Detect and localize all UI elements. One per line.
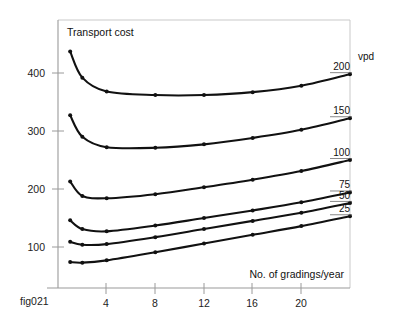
data-point [299, 169, 303, 173]
data-point [80, 135, 84, 139]
data-point [251, 219, 255, 223]
data-point [153, 250, 157, 254]
data-point [68, 218, 72, 222]
data-point [202, 227, 206, 231]
series-label-50: 50 [339, 190, 351, 201]
data-point [299, 84, 303, 88]
x-axis-title: No. of gradings/year [249, 268, 344, 280]
data-point [105, 90, 109, 94]
axes [47, 20, 350, 288]
series-line-25 [70, 216, 350, 262]
data-point [251, 178, 255, 182]
x-tick-label-4: 4 [103, 297, 109, 309]
series-layer [68, 50, 352, 265]
data-point [68, 240, 72, 244]
data-point [105, 258, 109, 262]
x-axis-ticks: 4 8 12 16 20 [103, 283, 307, 309]
series-label-150: 150 [333, 105, 350, 116]
x-tick-label-16: 16 [246, 297, 258, 309]
data-point [299, 211, 303, 215]
series-200 [68, 50, 352, 98]
data-point [80, 261, 84, 265]
data-point [105, 145, 109, 149]
data-point [251, 233, 255, 237]
x-tick-label-12: 12 [198, 297, 210, 309]
data-point [299, 224, 303, 228]
series-line-200 [70, 52, 350, 96]
data-point [202, 142, 206, 146]
data-point [299, 200, 303, 204]
data-point [251, 90, 255, 94]
y-tick-label-300: 300 [27, 125, 45, 137]
x-tick-label-8: 8 [152, 297, 158, 309]
data-point [68, 260, 72, 264]
data-point [251, 208, 255, 212]
data-point [202, 93, 206, 97]
series-label-layer: 200150100755025 [330, 61, 352, 215]
data-point [153, 146, 157, 150]
data-point [153, 224, 157, 228]
data-point [80, 76, 84, 80]
figure-caption: fig021 [20, 295, 49, 307]
data-point [105, 196, 109, 200]
legend-unit-label: vpd [358, 51, 374, 62]
series-150 [68, 113, 352, 149]
data-point [202, 185, 206, 189]
series-25 [68, 214, 352, 264]
y-tick-label-200: 200 [27, 183, 45, 195]
data-point [153, 235, 157, 239]
data-point [68, 50, 72, 54]
data-point [251, 136, 255, 140]
data-point [153, 93, 157, 97]
data-point [299, 128, 303, 132]
y-axis-title: Transport cost [67, 26, 134, 38]
series-100 [68, 158, 352, 200]
y-tick-label-400: 400 [27, 67, 45, 79]
series-label-100: 100 [333, 147, 350, 158]
y-tick-label-100: 100 [27, 241, 45, 253]
data-point [105, 229, 109, 233]
data-point [68, 113, 72, 117]
figure-container: 400 300 200 100 4 8 12 16 20 Transport c… [0, 0, 397, 321]
data-point [202, 242, 206, 246]
data-point [202, 216, 206, 220]
series-line-100 [70, 160, 350, 198]
series-label-25: 25 [339, 203, 351, 214]
data-point [80, 194, 84, 198]
series-label-75: 75 [339, 179, 351, 190]
data-point [105, 242, 109, 246]
data-point [80, 243, 84, 247]
data-point [80, 227, 84, 231]
x-tick-label-20: 20 [295, 297, 307, 309]
data-point [153, 192, 157, 196]
series-line-150 [70, 115, 350, 148]
data-point [68, 179, 72, 183]
plot-frame [58, 20, 350, 288]
series-label-200: 200 [333, 61, 350, 72]
transport-cost-chart: 400 300 200 100 4 8 12 16 20 Transport c… [0, 0, 397, 321]
